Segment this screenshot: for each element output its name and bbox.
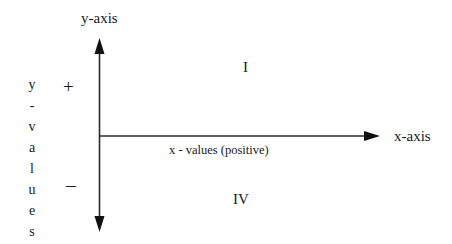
y-values-letter: s: [29, 223, 34, 244]
y-values-letter: l: [30, 160, 34, 181]
y-values-vertical-label: y - v a l u e s: [25, 76, 39, 244]
x-values-label: x - values (positive): [169, 144, 269, 157]
quadrant-iv-label: IV: [233, 192, 249, 207]
quadrant-i-label: I: [243, 60, 248, 75]
y-values-letter: v: [29, 118, 36, 139]
y-values-letter: y: [29, 76, 36, 97]
positive-sign: +: [63, 77, 74, 96]
y-axis-up-arrow-icon: [95, 38, 105, 54]
y-values-letter: e: [29, 202, 35, 223]
y-values-letter: u: [29, 181, 36, 202]
y-axis-down-arrow-icon: [95, 216, 105, 232]
y-values-letter: -: [30, 97, 35, 118]
coordinate-diagram: y-axis x-axis I IV + – x - values (posit…: [0, 0, 452, 244]
y-axis-label: y-axis: [81, 11, 118, 26]
x-axis-right-arrow-icon: [364, 131, 380, 141]
negative-sign: –: [66, 175, 76, 194]
axes-graphic: [0, 0, 452, 244]
x-axis-label: x-axis: [394, 129, 431, 144]
y-values-letter: a: [29, 139, 35, 160]
